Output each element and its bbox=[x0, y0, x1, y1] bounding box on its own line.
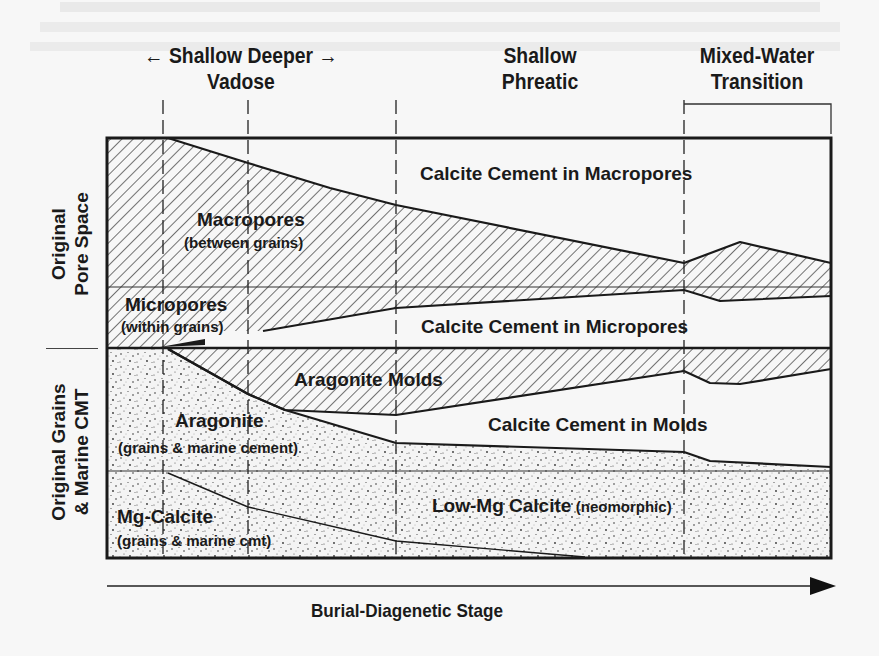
label-low-mg-calcite: Low-Mg Calcite (neomorphic) bbox=[432, 496, 672, 515]
low-mg-calcite-sub: (neomorphic) bbox=[576, 498, 672, 515]
burial-axis-arrow bbox=[107, 577, 836, 595]
zone-mixed-line1: Mixed-Water bbox=[682, 43, 832, 69]
label-cc-molds: Calcite Cement in Molds bbox=[488, 415, 708, 434]
zone-vadose-line1: ← Shallow Deeper → bbox=[122, 43, 360, 69]
label-cc-micropores: Calcite Cement in Micropores bbox=[421, 317, 688, 336]
label-aragonite: Aragonite bbox=[175, 411, 264, 430]
label-micropores: Micropores bbox=[125, 295, 227, 314]
side-pore-line1: Original bbox=[47, 139, 70, 349]
label-macropores: Macropores bbox=[197, 210, 305, 229]
side-label-pore-space: Original Pore Space bbox=[47, 139, 95, 349]
axis-arrowhead-icon bbox=[810, 577, 836, 595]
zone-mixed-line2: Transition bbox=[682, 69, 832, 95]
zone-vadose-line2: Vadose bbox=[122, 69, 360, 95]
label-micropores-sub: (within grains) bbox=[121, 319, 224, 334]
label-mg-calcite-sub: (grains & marine cmt) bbox=[117, 533, 271, 548]
axis-title-burial-stage: Burial-Diagenetic Stage bbox=[311, 601, 503, 620]
zone-phreatic-line2: Phreatic bbox=[470, 69, 611, 95]
zone-header-vadose: ← Shallow Deeper → Vadose bbox=[122, 43, 360, 95]
side-divider bbox=[46, 348, 98, 349]
label-aragonite-molds: Aragonite Molds bbox=[294, 370, 443, 389]
side-grains-line1: Original Grains bbox=[47, 347, 70, 557]
zone-header-mixed-water: Mixed-Water Transition bbox=[682, 43, 832, 95]
label-cc-macropores: Calcite Cement in Macropores bbox=[420, 164, 692, 183]
zone-phreatic-line1: Shallow bbox=[470, 43, 611, 69]
transition-bracket bbox=[684, 104, 831, 134]
side-grains-line2: & Marine CMT bbox=[70, 347, 93, 557]
label-macropores-sub: (between grains) bbox=[184, 235, 303, 250]
side-label-grains: Original Grains & Marine CMT bbox=[47, 347, 95, 557]
side-pore-line2: Pore Space bbox=[70, 139, 93, 349]
label-aragonite-sub: (grains & marine cement) bbox=[118, 440, 298, 455]
zone-header-phreatic: Shallow Phreatic bbox=[470, 43, 611, 95]
label-mg-calcite: Mg-Calcite bbox=[117, 507, 213, 526]
low-mg-calcite-title: Low-Mg Calcite bbox=[432, 495, 571, 516]
